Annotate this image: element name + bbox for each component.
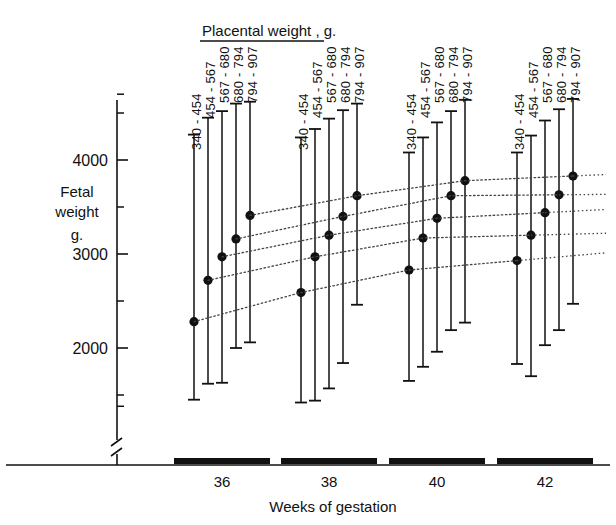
series-range-label: 454 - 567 [310,61,325,118]
series-range-label: 567 - 680 [217,46,232,103]
y-axis-title-group: Fetal weight g. [54,183,99,243]
connector-group [194,175,606,322]
x-category-bar [281,458,377,464]
chart-figure: Placental weight , g. Fetal weight g. 20… [0,0,616,525]
series-connector [236,195,559,239]
series-connector [194,261,517,322]
series-range-label: 680 - 794 [231,46,246,103]
series-range-label: 567 - 680 [324,46,339,103]
x-axis-group: 36384042 [174,458,593,490]
y-tick-group: 200030004000 [72,94,128,406]
y-tick-label: 4000 [72,152,108,169]
series-range-label: 794 - 907 [568,46,583,103]
series-range-label: 340 - 454 [296,93,311,150]
series-range-label: 680 - 794 [554,46,569,103]
series-connector [222,213,545,257]
series-range-label: 794 - 907 [460,46,475,103]
series-range-label: 340 - 454 [512,93,527,150]
series-connector-tail [545,209,606,212]
data-point-marker [338,212,347,221]
series-range-label: 340 - 454 [404,93,419,150]
chart-title-group: Placental weight , g. [200,22,336,41]
data-point-marker [310,252,319,261]
x-category-bar [497,458,593,464]
series-range-label: 454 - 567 [203,61,218,118]
chart-title: Placental weight , g. [202,22,336,39]
x-category-bar [174,458,270,464]
series-connector [250,176,573,215]
series-range-label: 567 - 680 [540,46,555,103]
series-connector-tail [531,233,606,235]
chart-canvas: Placental weight , g. Fetal weight g. 20… [0,0,616,525]
series-connector [208,235,531,280]
x-category-bar [389,458,485,464]
y-axis-title-line-2: weight [54,203,99,220]
y-axis-title-line-1: Fetal [60,183,93,200]
series-range-label: 340 - 454 [189,93,204,150]
x-category-label: 36 [214,473,231,490]
series-connector-tail [573,175,606,176]
series-label-group: 340 - 454340 - 454340 - 454340 - 454454 … [189,46,583,150]
series-range-label: 794 - 907 [352,46,367,103]
x-axis-title: Weeks of gestation [269,498,396,515]
y-tick-label: 2000 [72,340,108,357]
series-range-label: 794 - 907 [245,46,260,103]
y-tick-label: 3000 [72,246,108,263]
x-axis-title-group: Weeks of gestation [269,498,396,515]
series-range-label: 680 - 794 [338,46,353,103]
series-range-label: 454 - 567 [526,61,541,118]
series-range-label: 567 - 680 [432,46,447,103]
series-range-label: 680 - 794 [446,46,461,103]
series-range-label: 454 - 567 [418,61,433,118]
x-category-label: 38 [321,473,338,490]
x-category-label: 42 [537,473,554,490]
y-axis-title-line-3: g. [71,226,84,243]
x-category-label: 40 [429,473,446,490]
